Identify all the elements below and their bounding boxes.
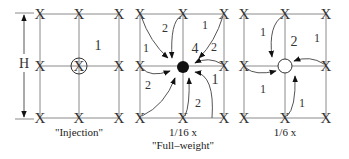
panel-one-sixth: X X X X X X X X 1 2 1 1 1 1/6 x (239, 6, 332, 138)
svg-text:X: X (219, 110, 230, 126)
dimension-label: H (19, 56, 29, 71)
svg-text:X: X (178, 6, 189, 22)
svg-text:X: X (219, 6, 230, 22)
svg-text:X: X (321, 58, 332, 74)
svg-text:X: X (74, 6, 85, 22)
weighting-schemes-diagram: H X X X X X X X X X 1 "Injection" (0, 0, 349, 159)
svg-text:X: X (135, 58, 146, 74)
panel-caption: "Full–weight" (152, 139, 214, 151)
cell-weight: 1 (260, 82, 266, 96)
svg-text:X: X (114, 58, 125, 74)
cell-weight: 1 (299, 96, 305, 110)
arrow-weight: 2 (145, 78, 151, 92)
height-dimension: H (15, 13, 34, 119)
svg-text:X: X (35, 110, 46, 126)
full-weight-point-dot-icon (177, 61, 189, 73)
center-cell-weight: 4 (192, 41, 199, 56)
svg-text:X: X (178, 110, 189, 126)
arrow-weight: 2 (195, 96, 201, 110)
panel-injection: H X X X X X X X X X 1 "Injection" (15, 6, 125, 138)
cell-weight: 1 (314, 31, 320, 45)
sample-point-circle-icon (278, 59, 292, 73)
panel-full-weight: X X X X X X X X 4 1 2 1 2 2 2 1 1/16 x "… (135, 6, 230, 151)
svg-text:X: X (280, 6, 291, 22)
svg-text:X: X (219, 58, 230, 74)
svg-text:X: X (239, 58, 250, 74)
cell-weight: 1 (95, 38, 102, 53)
center-cell-weight: 2 (291, 34, 298, 49)
svg-text:X: X (239, 6, 250, 22)
arrow-weight: 2 (211, 40, 217, 54)
arrow-weight: 1 (143, 41, 149, 55)
svg-text:X: X (135, 6, 146, 22)
panel-caption: 1/6 x (274, 126, 297, 138)
svg-text:X: X (35, 58, 46, 74)
svg-text:X: X (114, 6, 125, 22)
svg-text:X: X (135, 110, 146, 126)
svg-text:X: X (74, 110, 85, 126)
panel-caption: "Injection" (55, 126, 103, 138)
svg-text:X: X (280, 110, 291, 126)
svg-text:X: X (321, 6, 332, 22)
arrow-weight: 2 (162, 21, 168, 35)
svg-text:X: X (321, 110, 332, 126)
arrow-weight: 1 (212, 72, 219, 87)
arrow-weight: 1 (202, 18, 208, 32)
svg-text:X: X (114, 110, 125, 126)
cell-weight: 1 (260, 25, 266, 39)
panel-caption: 1/16 x (169, 126, 197, 138)
svg-text:X: X (239, 110, 250, 126)
svg-text:X: X (74, 58, 85, 74)
svg-text:X: X (35, 6, 46, 22)
